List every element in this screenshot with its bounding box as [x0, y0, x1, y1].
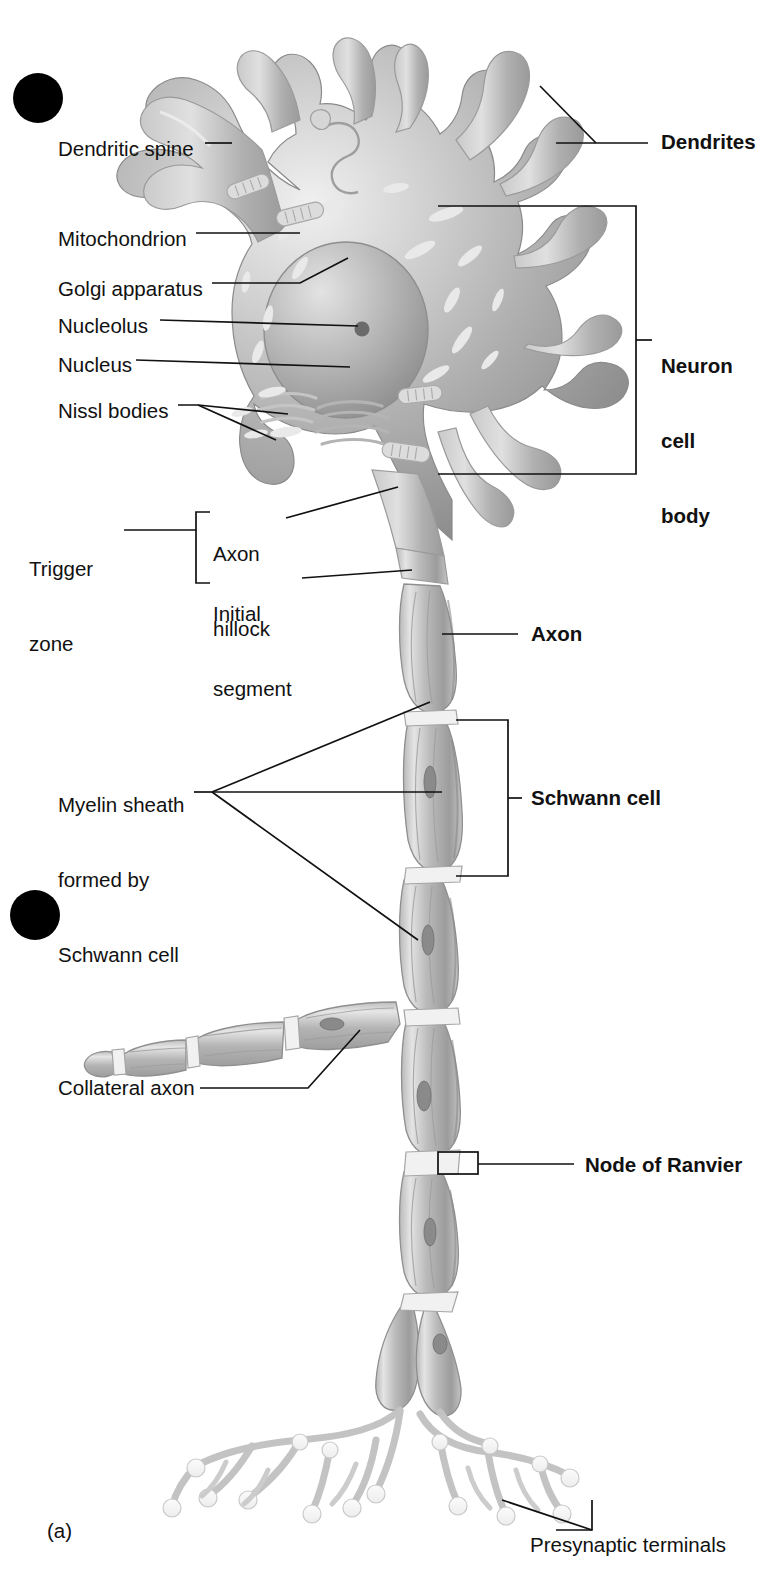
label-initial-segment-line2: segment [213, 676, 292, 701]
label-neuron-cell-body-line2: cell [661, 428, 733, 453]
marker-dot-top [13, 73, 63, 123]
node-3 [404, 1008, 460, 1026]
label-myelin-sheath-line1: Myelin sheath [58, 792, 184, 817]
leader-axon-hillock [286, 487, 398, 518]
label-trigger-zone-line2: zone [29, 631, 93, 656]
label-collateral-axon: Collateral axon [58, 1075, 195, 1100]
label-nucleus: Nucleus [58, 352, 132, 377]
node-4 [404, 1150, 460, 1176]
node-5 [400, 1292, 458, 1312]
label-initial-segment-line1: Initial [213, 601, 292, 626]
label-node-of-ranvier: Node of Ranvier [585, 1152, 742, 1177]
label-myelin-sheath: Myelin sheath formed by Schwann cell [58, 742, 184, 992]
label-myelin-sheath-line3: Schwann cell [58, 942, 184, 967]
marker-dot-middle [10, 890, 60, 940]
nucleolus [355, 322, 370, 337]
label-golgi-apparatus: Golgi apparatus [58, 276, 203, 301]
leader-myelin-down [212, 792, 418, 940]
leader-initial-segment [302, 570, 412, 578]
label-dendrites: Dendrites [661, 129, 756, 154]
collateral-segment-3 [117, 1040, 187, 1076]
label-neuron-cell-body: Neuron cell body [661, 303, 733, 553]
myelin-segment-6a [376, 1308, 419, 1410]
label-mitochondrion: Mitochondrion [58, 226, 187, 251]
myelinated-axon [376, 584, 463, 1416]
panel-label: (a) [47, 1519, 72, 1543]
bracket-trigger-zone-arm [196, 512, 210, 583]
label-myelin-sheath-line2: formed by [58, 867, 184, 892]
label-axon: Axon [531, 621, 582, 646]
label-trigger-zone: Trigger zone [29, 506, 93, 681]
collateral-tip [84, 1051, 116, 1076]
label-trigger-zone-line1: Trigger [29, 556, 93, 581]
label-nucleolus: Nucleolus [58, 313, 148, 338]
dendrite-right-bottom [470, 406, 561, 490]
label-initial-segment: Initial segment [213, 551, 292, 726]
label-schwann-cell: Schwann cell [531, 785, 661, 810]
node-1 [404, 710, 458, 726]
dendrite-upper-left [140, 97, 286, 242]
label-neuron-cell-body-line3: body [661, 503, 733, 528]
myelin-segment-6b [416, 1310, 461, 1416]
node-2 [404, 866, 462, 884]
label-nissl-bodies: Nissl bodies [58, 398, 169, 423]
label-presynaptic-terminals: Presynaptic terminals [530, 1532, 726, 1557]
bracket-schwann-cell [456, 720, 508, 876]
label-dendritic-spine: Dendritic spine [58, 136, 194, 161]
dendrite-right-mid [514, 206, 607, 268]
figure-canvas: Dendritic spine Mitochondrion Golgi appa… [0, 0, 766, 1584]
label-neuron-cell-body-line1: Neuron [661, 353, 733, 378]
